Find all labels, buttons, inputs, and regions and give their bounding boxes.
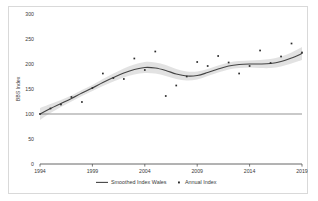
annual-index-point [39, 113, 41, 115]
annual-index-point [259, 50, 261, 52]
annual-index-point [301, 52, 303, 54]
confidence-band [40, 47, 302, 120]
annual-index-point [175, 85, 177, 87]
y-tick-label: 250 [25, 36, 34, 42]
annual-index-point [280, 56, 282, 58]
x-tick-label: 2004 [139, 168, 151, 174]
annual-index-point [50, 108, 52, 110]
y-tick-label: 150 [25, 86, 34, 92]
y-axis-title-text: BBS Index [15, 76, 21, 101]
x-tick-label: 2009 [191, 168, 203, 174]
legend-square-marker [178, 182, 180, 184]
legend-label-annual: Annual Index [185, 179, 217, 185]
chart-figure: 050100150200250300 199419992004200920142… [0, 0, 318, 201]
bbs-index-line-chart: 050100150200250300 199419992004200920142… [0, 0, 318, 201]
annual-index-point [154, 51, 156, 53]
y-axis: 050100150200250300 [25, 11, 34, 167]
annual-index-point [249, 65, 251, 67]
annual-index-point [113, 77, 115, 79]
confidence-band-area [40, 47, 302, 120]
annual-index-point [291, 43, 293, 45]
chart-legend: Smoothed Index WalesAnnual Index [96, 179, 217, 185]
annual-index-point [81, 101, 83, 103]
y-tick-label: 300 [25, 11, 34, 17]
y-tick-label: 200 [25, 61, 34, 67]
x-tick-label: 2014 [244, 168, 256, 174]
annual-index-point [270, 62, 272, 64]
annual-index-point [144, 69, 146, 71]
annual-index-point [60, 104, 62, 106]
annual-index-point [102, 73, 104, 75]
annual-index-point [238, 73, 240, 75]
annual-index-point [186, 76, 188, 78]
annual-index-point [165, 95, 167, 97]
y-tick-label: 0 [31, 161, 34, 167]
x-tick-label: 2019 [296, 168, 308, 174]
plot-area: 050100150200250300 199419992004200920142… [0, 0, 318, 201]
annual-index-point [196, 61, 198, 63]
y-tick-label: 50 [28, 136, 34, 142]
y-axis-title: BBS Index [15, 76, 21, 101]
annual-index-point [217, 55, 219, 57]
annual-index-point [71, 96, 73, 98]
annual-index-point [228, 62, 230, 64]
x-axis: 199419992004200920142019 [34, 164, 308, 174]
annual-index-points [39, 43, 303, 115]
annual-index-point [123, 78, 125, 80]
y-tick-label: 100 [25, 111, 34, 117]
x-tick-label: 1994 [34, 168, 46, 174]
annual-index-point [92, 87, 94, 89]
x-tick-label: 1999 [87, 168, 99, 174]
annual-index-point [133, 58, 135, 60]
annual-index-point [207, 65, 209, 67]
legend-label-smoothed: Smoothed Index Wales [111, 179, 167, 185]
